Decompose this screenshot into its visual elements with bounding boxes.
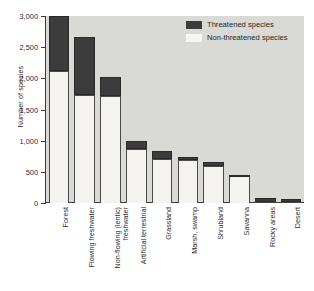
x-label-shrubland: Shrubland bbox=[217, 207, 225, 291]
bar-segment-non-threatened bbox=[100, 96, 121, 203]
bar-segment-threatened bbox=[255, 198, 276, 202]
y-tick-2500 bbox=[41, 47, 46, 48]
y-tick-500 bbox=[41, 172, 46, 173]
bar-segment-non-threatened bbox=[281, 202, 302, 203]
bar-forest bbox=[49, 16, 70, 203]
y-tick-label-3000: 3,000 bbox=[20, 12, 39, 21]
x-label-non-flowing-lentic-freshwater: Non-flowing (lentic) freshwater bbox=[114, 207, 130, 291]
bar-segment-threatened bbox=[229, 175, 250, 178]
y-tick-label-1500: 1,500 bbox=[20, 105, 39, 114]
x-label-savanna: Savanna bbox=[243, 207, 251, 291]
bar-segment-threatened bbox=[281, 199, 302, 202]
bar-grassland bbox=[152, 151, 173, 203]
bar-savanna bbox=[229, 175, 250, 203]
bar-segment-non-threatened bbox=[49, 71, 70, 203]
y-tick-label-2500: 2,500 bbox=[20, 43, 39, 52]
y-tick-1000 bbox=[41, 141, 46, 142]
y-tick-1500 bbox=[41, 110, 46, 111]
bar-segment-non-threatened bbox=[178, 160, 199, 203]
bar-segment-non-threatened bbox=[255, 202, 276, 203]
y-tick-label-2000: 2,000 bbox=[20, 74, 39, 83]
bar-marsh-swamp bbox=[178, 157, 199, 203]
bar-segment-threatened bbox=[126, 141, 147, 148]
y-axis-title: Number of species bbox=[16, 47, 25, 147]
bar-shrubland bbox=[203, 162, 224, 203]
legend-label-non-threatened: Non-threatened species bbox=[207, 33, 288, 42]
x-label-forest: Forest bbox=[62, 207, 70, 291]
bar-segment-threatened bbox=[74, 37, 95, 94]
bar-flowing-freshwater bbox=[74, 37, 95, 203]
bar-segment-threatened bbox=[203, 162, 224, 166]
x-label-artificial-terrestrial: Artificial terrestrial bbox=[140, 207, 148, 291]
bar-segment-threatened bbox=[152, 151, 173, 158]
x-label-flowing-freshwater: Flowing freshwater bbox=[88, 207, 96, 291]
bar-segment-non-threatened bbox=[152, 159, 173, 203]
y-tick-3000 bbox=[41, 16, 46, 17]
legend-item-non-threatened: Non-threatened species bbox=[186, 33, 288, 42]
bar-segment-non-threatened bbox=[74, 95, 95, 203]
bar-rocky-areas bbox=[255, 198, 276, 203]
bar-segment-non-threatened bbox=[126, 149, 147, 203]
y-tick-label-500: 500 bbox=[26, 167, 38, 176]
bar-segment-non-threatened bbox=[229, 176, 250, 203]
y-tick-2000 bbox=[41, 78, 46, 79]
bar-non-flowing-lentic-freshwater bbox=[100, 77, 121, 203]
species-by-habitat-stacked-bar-chart: Number of species 05001,0001,5002,0002,5… bbox=[0, 0, 314, 291]
bar-segment-non-threatened bbox=[203, 166, 224, 203]
x-label-grassland: Grassland bbox=[165, 207, 173, 291]
x-label-rocky-areas: Rocky areas bbox=[269, 207, 277, 291]
bar-segment-threatened bbox=[178, 157, 199, 160]
y-tick-label-0: 0 bbox=[34, 199, 38, 208]
y-tick-label-1000: 1,000 bbox=[20, 136, 39, 145]
legend: Threatened species Non-threatened specie… bbox=[186, 20, 288, 46]
legend-item-threatened: Threatened species bbox=[186, 20, 288, 29]
bar-segment-threatened bbox=[49, 16, 70, 71]
x-label-marsh-swamp: Marsh, swamp bbox=[191, 207, 199, 291]
x-label-desert: Desert bbox=[294, 207, 302, 291]
bar-segment-threatened bbox=[100, 77, 121, 96]
bar-artificial-terrestrial bbox=[126, 141, 147, 203]
legend-swatch-non-threatened-icon bbox=[186, 34, 202, 42]
y-tick-0 bbox=[41, 203, 46, 204]
legend-label-threatened: Threatened species bbox=[207, 20, 274, 29]
legend-swatch-threatened-icon bbox=[186, 21, 202, 29]
bar-desert bbox=[281, 199, 302, 203]
